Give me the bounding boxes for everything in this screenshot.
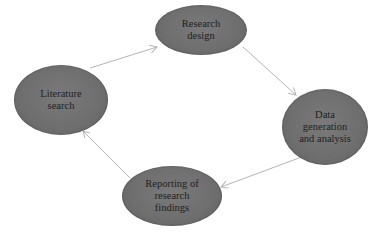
node-label: Research design — [176, 18, 226, 42]
node-research-design: Research design — [155, 5, 247, 55]
arrow-analysis-to-reporting — [221, 155, 307, 187]
node-label: Reporting of research findings — [139, 178, 204, 214]
arrow-literature-to-design — [90, 47, 157, 68]
node-data-generation-and-analysis: Data generation and analysis — [282, 89, 368, 165]
arrow-reporting-to-literature — [83, 131, 130, 178]
node-literature-search: Literature search — [14, 65, 108, 135]
node-label: Data generation and analysis — [293, 109, 357, 145]
node-reporting-of-research-findings: Reporting of research findings — [122, 166, 222, 226]
arrow-design-to-analysis — [243, 47, 296, 95]
research-cycle-diagram: Research design Data generation and anal… — [0, 0, 372, 234]
node-label: Literature search — [34, 88, 87, 112]
